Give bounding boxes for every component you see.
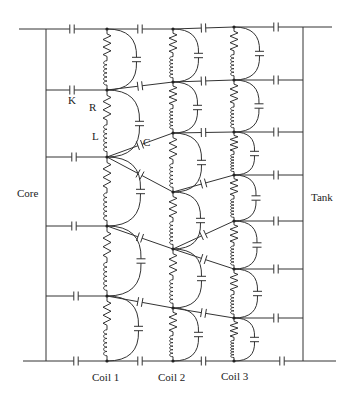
wire <box>107 126 140 157</box>
l-label: L <box>92 130 99 142</box>
core-label: Core <box>17 187 39 199</box>
wires <box>19 27 336 361</box>
inductor-icon <box>231 340 234 357</box>
junction-node <box>232 219 235 222</box>
wire <box>205 221 234 234</box>
junction-node <box>232 267 235 270</box>
resistor-icon <box>169 254 177 276</box>
wire <box>206 80 234 81</box>
junction-node <box>171 359 174 362</box>
wire <box>107 226 141 259</box>
resistor-icon <box>103 95 111 120</box>
wire <box>173 58 199 82</box>
wire <box>107 194 141 226</box>
wire <box>173 223 201 249</box>
inductor-icon <box>170 222 173 245</box>
resistor-icon <box>230 84 238 103</box>
inductor-icon <box>104 262 107 290</box>
coil2-label: Coil 2 <box>158 371 185 383</box>
wire <box>142 176 173 192</box>
inductor-icon <box>170 164 173 188</box>
junction-node <box>232 130 235 133</box>
junction-node <box>105 155 108 158</box>
wire <box>107 263 141 296</box>
junction-node <box>105 359 108 362</box>
junction-node <box>232 78 235 81</box>
resistor-icon <box>169 312 177 332</box>
junction-node <box>171 27 174 30</box>
wire <box>234 296 258 318</box>
resistor-icon <box>230 321 238 337</box>
inductor-icon <box>231 154 234 171</box>
resistor-icon <box>230 31 238 51</box>
junction-node <box>171 306 174 309</box>
junction-node <box>232 359 235 362</box>
wire <box>173 281 202 308</box>
junction-node <box>105 88 108 91</box>
wire <box>142 302 173 308</box>
wire <box>234 200 256 221</box>
wire <box>206 27 234 28</box>
wire <box>234 108 259 132</box>
inductor-icon <box>104 330 107 356</box>
wire <box>107 62 137 90</box>
wire <box>234 56 260 80</box>
resistor-icon <box>103 232 111 258</box>
inductor-icon <box>231 199 234 217</box>
junction-node <box>232 25 235 28</box>
resistor-icon <box>169 138 177 160</box>
labels: Core Tank Coil 1 Coil 2 Coil 3 K R L C <box>17 94 333 383</box>
junction-node <box>232 173 235 176</box>
resistor-icon <box>169 197 177 218</box>
coil1-label: Coil 1 <box>92 371 119 383</box>
inductor-icon <box>104 61 107 85</box>
inductor-icon <box>170 336 173 357</box>
inductor-icon <box>231 294 234 314</box>
resistor-icon <box>230 135 238 151</box>
resistor-icon <box>169 33 177 53</box>
capacitor-icon <box>204 230 208 238</box>
components <box>70 23 284 366</box>
inductor-icon <box>231 55 234 76</box>
wire <box>107 331 139 361</box>
inductor-icon <box>170 57 173 78</box>
circuit-diagram: Core Tank Coil 1 Coil 2 Coil 3 K R L C <box>0 0 352 398</box>
capacitor-icon <box>142 81 143 90</box>
coil3-label: Coil 3 <box>221 370 249 382</box>
wire <box>234 247 257 269</box>
wire <box>206 175 234 183</box>
junction-node <box>171 190 174 193</box>
inductor-icon <box>170 109 173 129</box>
wire <box>234 342 255 361</box>
junction-node <box>105 224 108 227</box>
capacitor-icon <box>137 82 138 91</box>
inductor-icon <box>231 107 234 128</box>
c-label: C <box>143 136 150 148</box>
inductor-icon <box>104 125 107 152</box>
wire <box>173 110 198 133</box>
junction-node <box>105 294 108 297</box>
capacitor-icon <box>200 232 204 240</box>
junction-node <box>171 131 174 134</box>
wire <box>142 82 173 86</box>
junction-node <box>171 247 174 250</box>
tank-label: Tank <box>311 191 333 203</box>
resistor-icon <box>230 273 238 291</box>
wire <box>173 249 201 258</box>
resistor-icon <box>169 86 177 105</box>
wire <box>206 313 234 318</box>
resistor-icon <box>230 179 238 196</box>
junction-node <box>171 80 174 83</box>
wire <box>142 238 173 249</box>
inductor-icon <box>170 280 173 304</box>
capacitor-icon <box>140 172 144 180</box>
resistor-icon <box>103 34 111 57</box>
wire <box>173 184 201 192</box>
k-label: K <box>68 94 76 106</box>
wire <box>234 156 255 175</box>
junction-node <box>105 27 108 30</box>
wire <box>206 260 234 269</box>
inductor-icon <box>104 193 107 221</box>
resistor-icon <box>103 163 111 189</box>
resistor-icon <box>103 301 111 325</box>
